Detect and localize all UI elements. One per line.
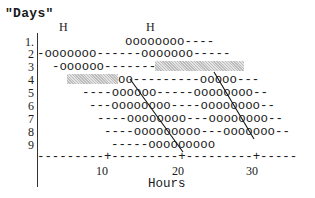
x-tick-10: 10 — [96, 164, 108, 179]
trend-line-2 — [214, 72, 254, 139]
trend-lines — [0, 0, 315, 198]
trend-line-1 — [130, 79, 183, 152]
x-tick-30: 30 — [246, 164, 258, 179]
x-axis: ---------+---------+---------+----- — [37, 151, 297, 163]
x-axis-label: Hours — [148, 177, 186, 191]
